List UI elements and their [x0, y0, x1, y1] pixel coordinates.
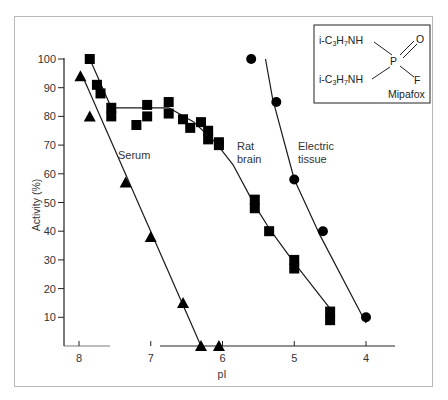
- x-tick-label: 6: [219, 352, 225, 364]
- y-tick-label: 20: [44, 283, 56, 295]
- rat-brain-point: [164, 97, 174, 107]
- electric-tissue-label-line2: tissue: [298, 153, 327, 165]
- rat-brain-point: [96, 88, 106, 98]
- rat-brain-point: [106, 103, 116, 113]
- rat-brain-point: [203, 134, 213, 144]
- serum-point: [145, 231, 157, 242]
- serum-point: [120, 176, 132, 187]
- rat-brain-point: [196, 117, 206, 127]
- mipafox-label: Mipafox: [388, 88, 426, 100]
- electric-tissue-point: [246, 54, 256, 64]
- electric-tissue-point: [289, 175, 299, 185]
- serum-point: [84, 110, 96, 121]
- x-tick-label: 8: [76, 352, 82, 364]
- x-axis-label: pI: [218, 368, 227, 380]
- chart: 10090807060504030201087654 Activity (%) …: [0, 0, 448, 400]
- rat-brain-point: [289, 255, 299, 265]
- y-tick-label: 40: [44, 225, 56, 237]
- electric-tissue-label-line1: Electric: [298, 140, 335, 152]
- serum-label: Serum: [118, 149, 150, 161]
- y-tick-label: 70: [44, 139, 56, 151]
- rat-brain-point: [106, 111, 116, 121]
- x-tick-label: 5: [291, 352, 297, 364]
- x-tick-label: 7: [148, 352, 154, 364]
- chem-group-top: i-C3H7NH: [319, 34, 363, 47]
- electric-tissue-point: [271, 97, 281, 107]
- chem-phosphorus: P: [390, 55, 397, 67]
- rat-brain-point: [185, 123, 195, 133]
- chem-fluorine: F: [414, 74, 420, 86]
- rat-brain-point: [142, 100, 152, 110]
- serum-point: [177, 297, 189, 308]
- y-tick-label: 10: [44, 311, 56, 323]
- x-tick-label: 4: [363, 352, 369, 364]
- rat-brain-point: [85, 54, 95, 64]
- y-tick-label: 80: [44, 110, 56, 122]
- electric-tissue-point: [361, 312, 371, 322]
- y-tick-label: 60: [44, 168, 56, 180]
- rat-brain-point: [250, 195, 260, 205]
- rat-brain-point: [214, 137, 224, 147]
- rat-brain-point: [92, 80, 102, 90]
- y-axis-label: Activity (%): [30, 179, 42, 232]
- rat-brain-point: [325, 315, 335, 325]
- rat-brain-label-line2: brain: [237, 153, 261, 165]
- rat-brain-point: [178, 114, 188, 124]
- rat-brain-point: [131, 120, 141, 130]
- rat-brain-point: [250, 203, 260, 213]
- rat-brain-point: [164, 109, 174, 119]
- chem-oxygen: O: [416, 33, 424, 45]
- y-tick-label: 50: [44, 197, 56, 209]
- chem-group-bottom: i-C3H7NH: [319, 73, 363, 86]
- y-tick-label: 30: [44, 254, 56, 266]
- rat-brain-point: [203, 126, 213, 136]
- rat-brain-point: [325, 307, 335, 317]
- serum-point: [74, 70, 86, 81]
- electric-tissue-point: [318, 226, 328, 236]
- rat-brain-point: [289, 264, 299, 274]
- rat-brain-point: [264, 226, 274, 236]
- rat-brain-point: [142, 111, 152, 121]
- mipafox-inset: i-C3H7NH i-C3H7NH P O F Mipafox: [314, 25, 430, 103]
- y-tick-label: 100: [38, 53, 56, 65]
- rat-brain-label-line1: Rat: [237, 140, 254, 152]
- y-tick-label: 90: [44, 82, 56, 94]
